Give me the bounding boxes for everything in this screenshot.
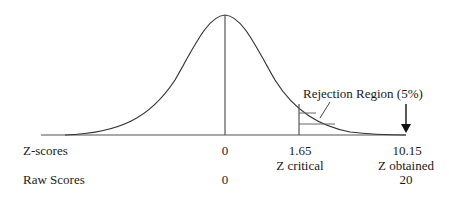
normal-curve-diagram: Rejection Region (5%) Z-scores Raw Score… — [0, 0, 449, 200]
obtained-raw-value: 20 — [400, 172, 413, 187]
rejection-leader-line — [320, 102, 330, 118]
critical-z-value: 1.65 — [289, 143, 312, 158]
z-scores-row-label: Z-scores — [23, 143, 68, 158]
obtained-caption: Z obtained — [378, 158, 434, 173]
rejection-region-label: Rejection Region (5%) — [303, 86, 423, 101]
bell-curve — [65, 15, 406, 135]
obtained-z-value: 10.15 — [392, 143, 421, 158]
critical-caption: Z critical — [276, 158, 324, 173]
mean-z-value: 0 — [222, 143, 229, 158]
mean-raw-value: 0 — [222, 172, 229, 187]
down-arrow-icon — [401, 104, 411, 133]
raw-scores-row-label: Raw Scores — [23, 172, 85, 187]
